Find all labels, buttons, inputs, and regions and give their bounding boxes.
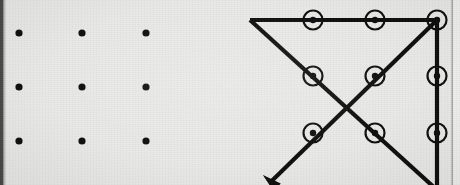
puzzle-dot-r2c3 <box>142 83 149 90</box>
puzzle-dot-r1c3 <box>142 29 149 36</box>
left-edge-shadow <box>0 0 4 185</box>
left-edge-gradient <box>4 0 6 185</box>
right-margin <box>453 0 460 185</box>
puzzle-dot-r3c2 <box>78 137 85 144</box>
solution-core-dot-r3c1 <box>310 130 316 136</box>
puzzle-dot-r1c1 <box>15 29 22 36</box>
puzzle-dot-r3c3 <box>142 137 149 144</box>
solution-core-dot-r2c2 <box>372 73 378 79</box>
solution-core-dot-r2c1 <box>310 73 316 79</box>
puzzle-dot-r3c1 <box>15 137 22 144</box>
figure-canvas <box>0 0 460 185</box>
solution-core-dot-r2c3 <box>434 73 440 79</box>
solution-core-dot-r1c2 <box>372 17 378 23</box>
right-edge-rule <box>452 0 453 185</box>
paper-background <box>0 0 460 185</box>
solution-core-dot-r3c2 <box>372 130 378 136</box>
puzzle-dot-r1c2 <box>78 29 85 36</box>
solution-core-dot-r1c3 <box>434 17 440 23</box>
solution-core-dot-r3c3 <box>434 130 440 136</box>
nine-dots-figure <box>0 0 460 185</box>
puzzle-dot-r2c1 <box>15 83 22 90</box>
solution-core-dot-r1c1 <box>310 17 316 23</box>
puzzle-dot-r2c2 <box>78 83 85 90</box>
